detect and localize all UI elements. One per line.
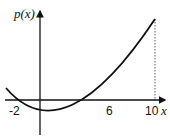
tick-neg2: -2 (9, 104, 20, 118)
chart: p(x) -2 6 10 x (0, 0, 170, 137)
curve-p (6, 19, 155, 111)
tick-6: 6 (106, 104, 113, 118)
tick-10: 10 (145, 104, 159, 118)
y-axis-label: p(x) (13, 6, 35, 21)
x-axis-label: x (160, 103, 167, 118)
